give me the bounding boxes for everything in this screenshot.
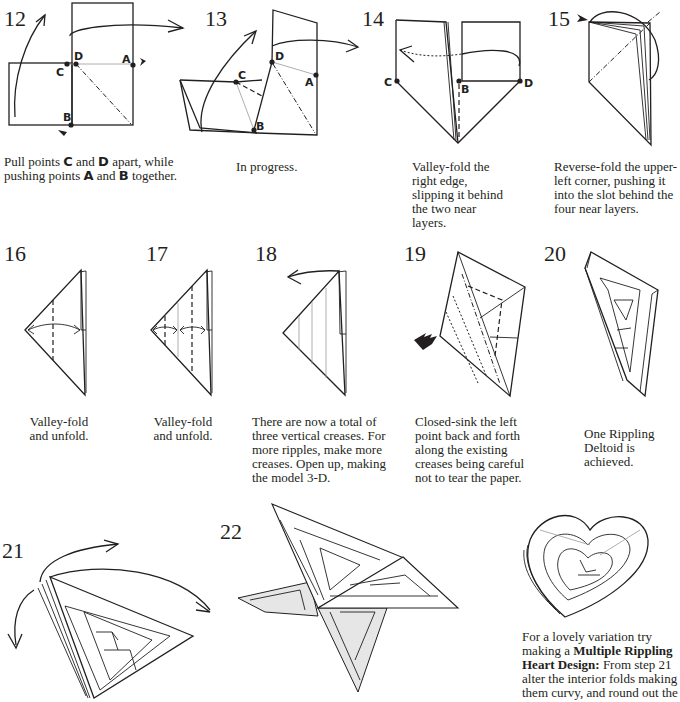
push-arrow-icon (577, 14, 588, 22)
diagram-step-16 (25, 270, 86, 395)
diagram-step-21 (8, 540, 210, 698)
diagram-step-18 (283, 270, 346, 395)
svg-text:A: A (122, 53, 131, 66)
svg-text:D: D (74, 50, 83, 63)
svg-text:B: B (256, 120, 264, 133)
svg-text:B: B (63, 111, 71, 124)
unfold-double-arrow-icon (28, 324, 80, 330)
unfold-double-arrow-icon (153, 327, 205, 330)
arrow-curved-icon (50, 569, 210, 610)
push-arrow-icon (58, 130, 67, 139)
diagram-step-19 (414, 252, 525, 396)
arrow-curved-icon (70, 25, 183, 36)
diagram-step-12: CD AB (9, 3, 183, 139)
diagram-step-14: CBD (384, 20, 533, 143)
diagram-step-20 (585, 252, 658, 396)
diagram-step-15 (577, 12, 660, 145)
origami-diagrams: CD AB CD AB CBD (0, 0, 680, 702)
svg-text:B: B (461, 83, 469, 96)
svg-text:C: C (384, 76, 392, 89)
svg-text:D: D (524, 77, 533, 90)
diagram-step-17 (151, 270, 212, 395)
sink-arrow-icon (414, 333, 437, 350)
svg-text:D: D (275, 50, 284, 63)
arrow-curved-icon (272, 40, 358, 47)
diagram-step-13: CD AB (180, 10, 358, 135)
arrow-curved-icon (462, 50, 520, 66)
diagram-heart-variation (524, 516, 648, 617)
diagram-step-22 (238, 504, 458, 692)
svg-text:C: C (238, 69, 246, 82)
svg-text:C: C (56, 66, 64, 79)
arrow-curved-icon (15, 590, 34, 645)
arrow-curved-icon (15, 15, 45, 117)
push-arrow-icon (140, 58, 146, 66)
svg-text:A: A (305, 76, 314, 89)
